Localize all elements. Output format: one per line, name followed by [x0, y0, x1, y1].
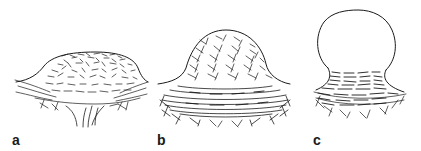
panel-label-b: b	[157, 133, 166, 147]
panel-label-a: a	[12, 133, 20, 147]
figure-drawing	[0, 0, 421, 151]
panel-c-drawing	[314, 10, 406, 118]
panel-a-drawing	[15, 52, 148, 127]
three-panel-figure: a b c	[0, 0, 421, 151]
panel-label-c: c	[313, 133, 321, 147]
panel-b-drawing	[158, 30, 290, 127]
